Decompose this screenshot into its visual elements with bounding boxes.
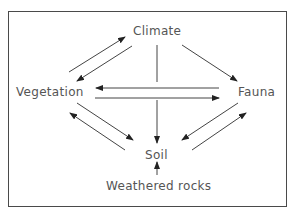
node-soil: Soil <box>145 148 168 162</box>
arrow-soil-to-fauna <box>192 113 246 150</box>
node-fauna: Fauna <box>238 85 275 99</box>
node-weathered-rocks: Weathered rocks <box>106 179 211 193</box>
node-vegetation: Vegetation <box>16 85 84 99</box>
arrow-climate-to-fauna <box>182 45 237 81</box>
arrow-vegetation-to-climate <box>69 37 125 72</box>
arrow-soil-to-vegetation <box>70 113 125 150</box>
arrow-climate-to-vegetation <box>77 46 132 81</box>
arrow-fauna-to-soil <box>182 103 238 140</box>
node-climate: Climate <box>133 24 181 38</box>
arrow-vegetation-to-soil <box>77 103 133 140</box>
